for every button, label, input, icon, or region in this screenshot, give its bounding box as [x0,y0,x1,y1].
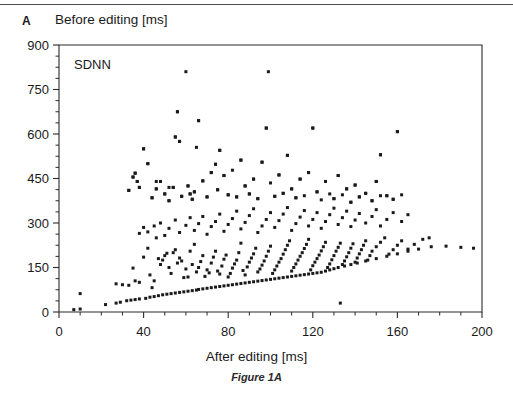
data-point [392,248,395,251]
data-point [174,219,177,222]
data-point [387,253,390,256]
data-point [364,239,367,242]
data-point [273,277,276,280]
data-point [197,266,200,269]
data-point [290,229,293,232]
data-point [261,161,264,164]
data-point [318,254,321,257]
data-point [343,259,346,262]
data-point [294,222,297,225]
data-point [277,261,280,264]
data-point [421,238,424,241]
data-point [189,250,192,253]
data-point [406,248,409,251]
data-point [146,162,149,165]
data-point [379,241,382,244]
data-point [294,274,297,277]
data-point [322,245,325,248]
data-point [379,224,382,227]
data-point [375,245,378,248]
data-point [191,263,194,266]
plot-frame [59,45,482,312]
data-point [246,265,249,268]
data-point [210,262,213,265]
y-tick-label: 150 [27,260,49,275]
data-point [400,193,403,196]
data-point [79,308,82,311]
data-point [252,252,255,255]
data-point [349,247,352,250]
data-point [299,255,302,258]
data-point [216,270,219,273]
data-point [212,256,215,259]
data-point [332,197,335,200]
data-point [218,273,221,276]
data-point [265,255,268,258]
data-point [138,232,141,235]
data-point [187,184,190,187]
data-point [195,146,198,149]
data-point [316,271,319,274]
data-point [115,302,118,305]
data-point [239,282,242,285]
data-point [237,251,240,254]
data-point [320,249,323,252]
data-point [210,171,213,174]
data-point [383,236,386,239]
data-point [163,234,166,237]
data-point [201,287,204,290]
data-point [220,265,223,268]
data-point [256,231,259,234]
data-point [184,224,187,227]
data-point [161,293,164,296]
data-point [134,298,137,301]
x-tick-label: 160 [387,324,409,339]
data-point [430,245,433,248]
data-point [286,206,289,209]
data-point [229,272,232,275]
data-point [233,262,236,265]
data-point [184,267,187,270]
data-point [341,216,344,219]
data-point [364,222,367,225]
data-point [265,278,268,281]
data-point [184,70,187,73]
data-point [235,283,238,286]
data-point [142,226,145,229]
data-point [187,275,190,278]
data-point [417,248,420,251]
data-point [178,291,181,294]
data-point [167,266,170,269]
data-point [354,184,357,187]
data-point [239,227,242,230]
data-point [244,281,247,284]
data-point [195,270,198,273]
data-point [339,242,342,245]
data-point [180,259,183,262]
data-point [256,270,259,273]
data-point [225,254,228,257]
data-point [345,210,348,213]
data-point [222,258,225,261]
data-point [324,270,327,273]
data-point [309,268,312,271]
data-point [254,247,257,250]
data-point [172,186,175,189]
data-point [151,286,154,289]
data-point [218,213,221,216]
data-point [206,233,209,236]
data-point [396,252,399,255]
data-point [271,272,274,275]
data-point [252,280,255,283]
data-point [286,244,289,247]
data-point [349,225,352,228]
data-point [176,110,179,113]
data-point [349,201,352,204]
data-point [282,253,285,256]
data-point [161,259,164,262]
data-point-group [72,70,475,311]
data-point [189,216,192,219]
data-point [248,214,251,217]
data-point [235,210,238,213]
x-tick-label: 40 [136,324,150,339]
